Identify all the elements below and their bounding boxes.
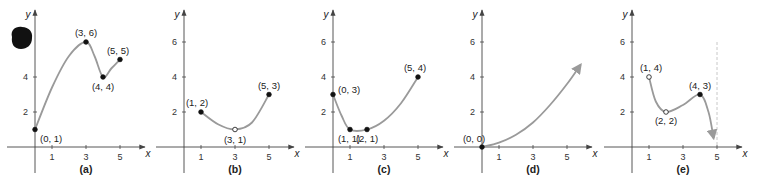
y-tick-label: 2 (321, 107, 326, 117)
x-tick-label: 5 (117, 152, 122, 162)
y-axis-label: y (25, 9, 32, 20)
x-axis-label: x (592, 148, 599, 159)
panel-label: (b) (228, 163, 241, 175)
point-label: (1, 2) (186, 97, 208, 108)
x-tick-label: 5 (564, 152, 569, 162)
x-tick-label: 5 (714, 152, 719, 162)
filled-point (118, 57, 123, 62)
y-tick-label: 2 (620, 107, 625, 117)
open-point (664, 110, 669, 115)
point-label: (3, 6) (75, 27, 97, 38)
y-tick-label: 4 (172, 72, 177, 82)
x-axis-label: x (294, 148, 301, 159)
figure: yx13524(0, 1)(3, 6)(4, 4)(5, 5)(a)yx1352… (0, 0, 758, 186)
point-label: (0, 3) (338, 84, 360, 95)
x-tick-label: 3 (381, 152, 386, 162)
x-tick-label: 1 (198, 152, 203, 162)
filled-point (101, 75, 106, 80)
chart-panel-c: yx135246(0, 3)(1, 1)(2, 1)(5, 4)(c) (305, 9, 450, 175)
x-tick-label: 1 (49, 152, 54, 162)
y-tick-label: 4 (620, 72, 625, 82)
point-label: (5, 5) (107, 45, 129, 56)
open-point (233, 127, 238, 132)
curve (201, 95, 269, 130)
filled-point (199, 110, 204, 115)
filled-point (33, 127, 38, 132)
point-label: (0, 1) (40, 133, 62, 144)
y-tick-label: 6 (470, 37, 475, 47)
x-tick-label: 5 (415, 152, 420, 162)
filled-point (365, 127, 370, 132)
panel-label: (e) (677, 163, 690, 175)
filled-point (331, 92, 336, 97)
point-label: (2, 1) (356, 133, 378, 144)
x-tick-label: 5 (266, 152, 271, 162)
chart-panel-e: yx135246(1, 4)(2, 2)(4, 3)(e) (604, 9, 749, 175)
filled-point (267, 92, 272, 97)
x-tick-label: 1 (496, 152, 501, 162)
blob-decoration (12, 27, 33, 49)
y-axis-label: y (472, 9, 479, 20)
point-label: (3, 1) (224, 134, 246, 145)
y-tick-label: 6 (172, 37, 177, 47)
y-tick-label: 2 (470, 107, 475, 117)
y-tick-label: 2 (172, 107, 177, 117)
filled-point (480, 145, 485, 150)
curve (482, 65, 581, 147)
y-tick-label: 4 (470, 72, 475, 82)
x-axis-label: x (443, 148, 450, 159)
filled-point (84, 40, 89, 45)
chart-panel-b: yx135246(1, 2)(3, 1)(5, 3)(b) (156, 9, 301, 175)
point-label: (5, 3) (258, 80, 280, 91)
panel-label: (a) (80, 163, 93, 175)
y-tick-label: 6 (321, 37, 326, 47)
point-label: (1, 4) (640, 62, 662, 73)
y-axis-label: y (323, 9, 330, 20)
y-tick-label: 2 (23, 107, 28, 117)
x-axis-label: x (145, 148, 152, 159)
panel-label: (c) (378, 163, 391, 175)
x-tick-label: 3 (530, 152, 535, 162)
x-axis-label: x (742, 148, 749, 159)
x-tick-label: 3 (232, 152, 237, 162)
y-tick-label: 6 (620, 37, 625, 47)
point-label: (4, 4) (92, 81, 114, 92)
y-tick-label: 4 (321, 72, 326, 82)
chart-panel-d: yx135246(0, 0)(d) (454, 9, 599, 175)
filled-point (416, 75, 421, 80)
open-point (647, 75, 652, 80)
x-tick-label: 1 (646, 152, 651, 162)
x-tick-label: 3 (83, 152, 88, 162)
x-tick-label: 3 (680, 152, 685, 162)
y-axis-label: y (174, 9, 181, 20)
panel-label: (d) (526, 163, 539, 175)
y-tick-label: 4 (23, 72, 28, 82)
filled-point (698, 92, 703, 97)
x-tick-label: 1 (347, 152, 352, 162)
point-label: (2, 2) (655, 115, 677, 126)
point-label: (4, 3) (689, 80, 711, 91)
point-label: (5, 4) (404, 62, 426, 73)
point-label: (0, 0) (463, 133, 485, 144)
filled-point (348, 127, 353, 132)
y-axis-label: y (622, 9, 629, 20)
